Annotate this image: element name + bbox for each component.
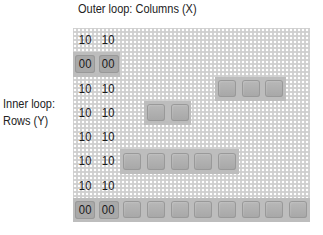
tile-block — [218, 153, 236, 170]
tile-block — [194, 153, 212, 170]
tile-block — [218, 201, 236, 218]
row-code-cell: 00 — [73, 198, 97, 222]
outer-loop-label: Outer loop: Columns (X) — [78, 2, 197, 16]
tile-block — [147, 201, 165, 218]
tile-cell — [239, 198, 263, 222]
tile-block — [194, 201, 212, 218]
tile-cell — [215, 149, 239, 173]
tile-cell — [120, 198, 144, 222]
inner-loop-label-line1: Inner loop: — [3, 96, 55, 113]
row-code-text: 10 — [102, 82, 115, 96]
tile-block — [242, 80, 260, 97]
tile-block — [289, 201, 307, 218]
tile-cell — [286, 198, 310, 222]
row-code-cell: 10 — [97, 149, 121, 173]
row-code-cell: 10 — [73, 77, 97, 101]
code-block: 00 — [99, 201, 119, 219]
tile-cell — [263, 77, 287, 101]
tile-block — [171, 201, 189, 218]
code-block: 00 — [75, 55, 95, 73]
tile-cell — [263, 198, 287, 222]
tile-block — [171, 104, 189, 121]
row-code-cell: 10 — [73, 101, 97, 125]
tile-block — [265, 80, 283, 97]
tile-block — [242, 201, 260, 218]
row-code-text: 00 — [78, 203, 91, 217]
row-code-cell: 10 — [73, 174, 97, 198]
tile-cell — [168, 198, 192, 222]
row-code-text: 10 — [78, 179, 91, 193]
tile-cell — [168, 101, 192, 125]
row-code-text: 00 — [78, 57, 91, 71]
tile-block — [123, 201, 141, 218]
row-code-text: 10 — [102, 179, 115, 193]
tile-grid: 10100000101010101010101010100000 — [73, 28, 310, 222]
tile-block — [147, 153, 165, 170]
row-code-text: 10 — [102, 130, 115, 144]
tile-cell — [192, 198, 216, 222]
code-block: 00 — [75, 201, 95, 219]
row-code-cell: 10 — [73, 28, 97, 52]
inner-loop-label: Inner loop: Rows (Y) — [3, 96, 55, 130]
row-code-text: 10 — [78, 33, 91, 47]
tile-block — [123, 153, 141, 170]
row-code-cell: 10 — [97, 101, 121, 125]
tile-cell — [144, 101, 168, 125]
row-code-cell: 10 — [97, 77, 121, 101]
row-code-text: 10 — [78, 106, 91, 120]
tile-block — [218, 80, 236, 97]
row-code-cell: 10 — [97, 125, 121, 149]
row-code-cell: 10 — [97, 174, 121, 198]
tile-cell — [144, 198, 168, 222]
row-code-text: 10 — [78, 154, 91, 168]
row-code-cell: 00 — [73, 52, 97, 76]
inner-loop-label-line2: Rows (Y) — [3, 113, 55, 130]
tile-cell — [192, 149, 216, 173]
tile-cell — [120, 149, 144, 173]
row-code-cell: 00 — [97, 52, 121, 76]
row-code-text: 10 — [78, 82, 91, 96]
tile-block — [265, 201, 283, 218]
tile-cell — [215, 198, 239, 222]
tile-cell — [144, 149, 168, 173]
tile-cell — [215, 77, 239, 101]
row-code-text: 10 — [102, 33, 115, 47]
tile-cell — [239, 77, 263, 101]
row-code-cell: 10 — [73, 125, 97, 149]
row-code-text: 10 — [102, 106, 115, 120]
row-code-text: 00 — [102, 203, 115, 217]
tile-cell — [168, 149, 192, 173]
row-code-cell: 10 — [97, 28, 121, 52]
row-code-cell: 10 — [73, 149, 97, 173]
row-code-text: 10 — [78, 130, 91, 144]
code-block: 00 — [99, 55, 119, 73]
tile-block — [147, 104, 165, 121]
row-code-cell: 00 — [97, 198, 121, 222]
tile-block — [171, 153, 189, 170]
row-code-text: 10 — [102, 154, 115, 168]
row-code-text: 00 — [102, 57, 115, 71]
